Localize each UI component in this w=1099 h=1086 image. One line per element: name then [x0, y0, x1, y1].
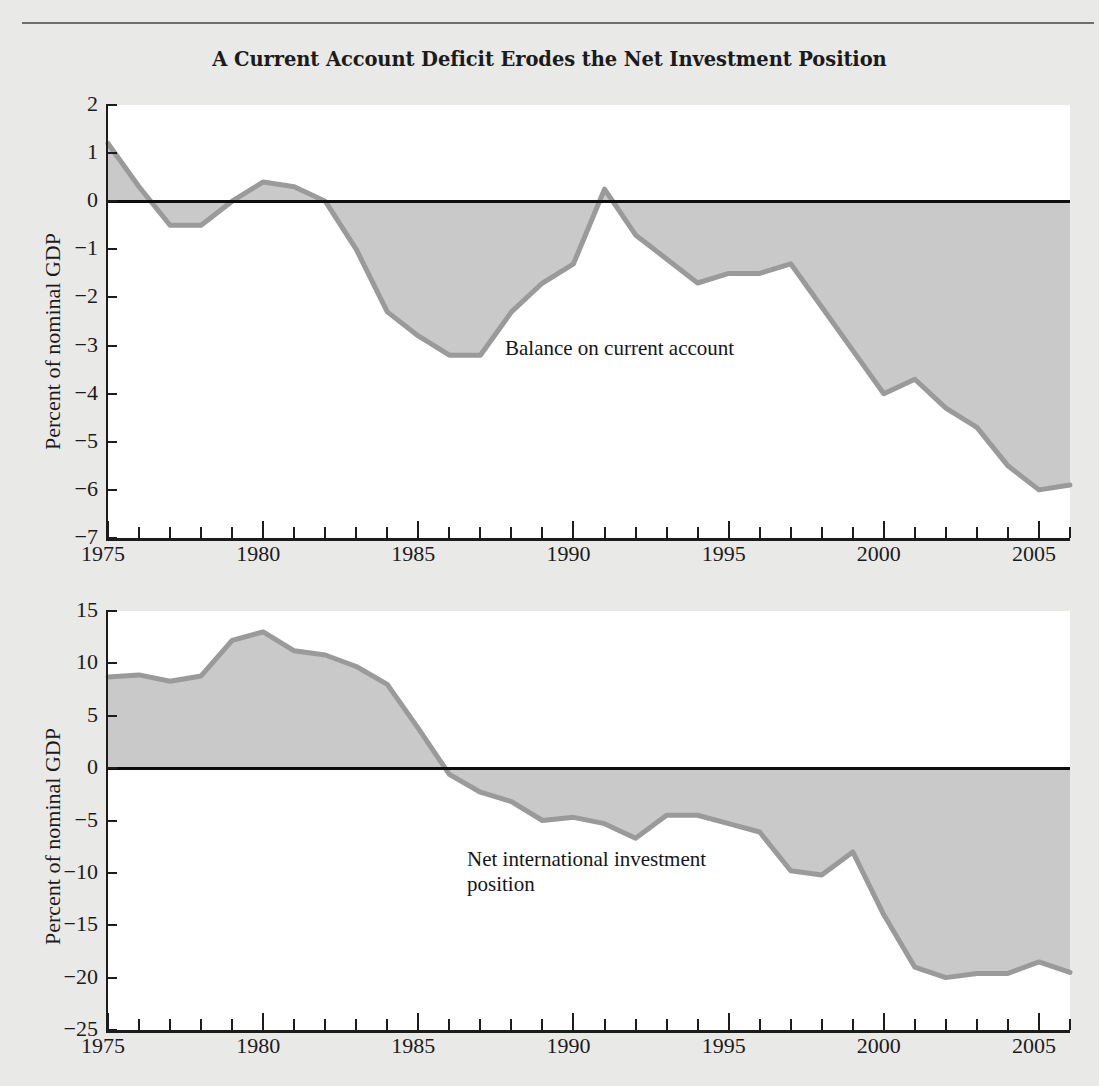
series-area-bottom: [108, 611, 1070, 1030]
y-tick-label: −5: [42, 807, 98, 833]
y-tick-mark: [106, 662, 117, 664]
x-tick-mark-major: [1038, 1013, 1040, 1030]
y-tick-mark: [106, 715, 117, 717]
x-tick-mark-minor: [169, 1019, 171, 1030]
x-tick-label: 1975: [81, 1033, 125, 1059]
x-tick-mark-minor: [386, 1019, 388, 1030]
y-tick-label: −10: [42, 859, 98, 885]
x-tick-label: 1985: [391, 1033, 435, 1059]
x-tick-mark-minor: [604, 1019, 606, 1030]
y-tick-mark: [106, 872, 117, 874]
y-tick-label: 10: [42, 649, 98, 675]
x-tick-mark-major: [417, 1013, 419, 1030]
x-tick-mark-minor: [635, 1019, 637, 1030]
x-tick-mark-minor: [231, 1019, 233, 1030]
y-tick-mark: [106, 610, 117, 612]
y-tick-label: 5: [42, 702, 98, 728]
x-tick-mark-major: [572, 1013, 574, 1030]
x-tick-mark-major: [262, 1013, 264, 1030]
x-tick-mark-minor: [697, 1019, 699, 1030]
zero-reference-line: [108, 767, 1070, 770]
x-tick-mark-minor: [448, 1019, 450, 1030]
x-tick-mark-minor: [976, 1019, 978, 1030]
x-tick-mark-minor: [510, 1019, 512, 1030]
x-tick-label: 2000: [857, 1033, 901, 1059]
chart-panel-bottom: Percent of nominal GDP 151050−5−10−15−20…: [0, 0, 1099, 1086]
y-tick-mark: [106, 924, 117, 926]
x-tick-mark-minor: [821, 1019, 823, 1030]
x-tick-mark-minor: [1007, 1019, 1009, 1030]
x-tick-mark-minor: [1069, 1019, 1071, 1030]
x-tick-mark-major: [728, 1013, 730, 1030]
x-tick-label: 1980: [236, 1033, 280, 1059]
y-tick-mark: [106, 820, 117, 822]
x-tick-mark-minor: [666, 1019, 668, 1030]
x-tick-mark-minor: [945, 1019, 947, 1030]
series-area-fill: [108, 632, 1070, 978]
x-tick-mark-minor: [293, 1019, 295, 1030]
x-tick-mark-minor: [852, 1019, 854, 1030]
x-tick-mark-minor: [790, 1019, 792, 1030]
x-tick-label: 1995: [702, 1033, 746, 1059]
series-annotation-bottom: Net international investment position: [467, 847, 706, 897]
y-tick-mark: [106, 767, 117, 769]
x-tick-mark-minor: [355, 1019, 357, 1030]
x-tick-mark-minor: [200, 1019, 202, 1030]
x-tick-mark-major: [107, 1013, 109, 1030]
x-tick-mark-minor: [324, 1019, 326, 1030]
x-tick-mark-minor: [541, 1019, 543, 1030]
x-tick-mark-minor: [138, 1019, 140, 1030]
y-tick-label: −15: [42, 911, 98, 937]
y-tick-label: 15: [42, 597, 98, 623]
x-tick-mark-minor: [914, 1019, 916, 1030]
x-tick-mark-minor: [479, 1019, 481, 1030]
y-tick-label: 0: [42, 754, 98, 780]
x-tick-label: 1990: [546, 1033, 590, 1059]
x-tick-mark-minor: [759, 1019, 761, 1030]
plot-area-bottom: [108, 611, 1070, 1030]
x-tick-label: 2005: [1012, 1033, 1056, 1059]
y-tick-label: −20: [42, 964, 98, 990]
figure-page: A Current Account Deficit Erodes the Net…: [0, 0, 1099, 1086]
y-tick-mark: [106, 977, 117, 979]
x-tick-mark-major: [883, 1013, 885, 1030]
